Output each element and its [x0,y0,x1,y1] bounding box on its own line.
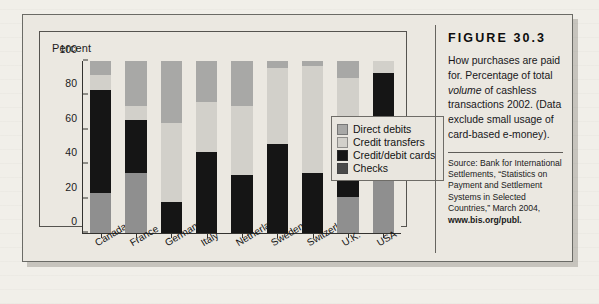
bar-segment-credit-debit-cards [302,173,323,233]
y-axis-tick-mark [83,232,88,233]
bar-group-italy [196,61,217,233]
y-axis-tick-label: 100 [59,43,83,55]
bar-group-germany [161,61,182,233]
y-axis-tick-label: 80 [65,77,83,89]
bar-segment-credit-transfers [90,75,111,90]
chart-legend: Direct debits Credit transfers Credit/de… [331,116,444,181]
figure-caption-column: FIGURE 30.3 How purchases are paid for. … [435,25,563,253]
caption-divider [448,152,563,153]
bar-segment-credit-transfers [196,102,217,152]
bar-segment-credit-debit-cards [196,152,217,233]
bar-segment-direct-debits [337,61,358,78]
bar-group-france [125,61,146,233]
legend-swatch-credit-transfers [337,137,348,148]
legend-label-credit-debit-cards: Credit/debit cards [353,149,435,161]
bar-segment-credit-transfers [231,106,252,175]
bar-segment-direct-debits [267,61,288,68]
legend-item: Direct debits [337,123,435,135]
y-axis-tick-mark [83,197,88,198]
bar-segment-checks [90,193,111,233]
bar-segment-credit-transfers [161,123,182,202]
bar-segment-direct-debits [161,61,182,123]
bar-segment-credit-transfers [302,66,323,173]
y-axis-tick-mark [83,60,88,61]
legend-item: Checks [337,162,435,174]
bar-group-canada [90,61,111,233]
y-axis-tick-label: 20 [65,181,83,193]
figure-source-text: Source: Bank for International Settlemen… [448,158,562,214]
y-axis-tick-mark [83,128,88,129]
bar-segment-checks [125,173,146,233]
legend-label-checks: Checks [353,162,388,174]
bar-segment-credit-debit-cards [231,175,252,233]
bar-segment-credit-debit-cards [267,144,288,233]
figure-description: How purchases are paid for. Percentage o… [448,54,563,143]
figure-source-url: www.bis.org/publ. [448,215,522,225]
y-axis-tick-mark [83,94,88,95]
bar-group-sweden [267,61,288,233]
bar-segment-direct-debits [90,61,111,75]
bar-segment-credit-debit-cards [125,120,146,173]
bar-group-switzerland [302,61,323,233]
figure-number-label: FIGURE 30.3 [448,31,563,45]
bar-segment-credit-debit-cards [90,90,111,193]
bar-segment-direct-debits [196,61,217,102]
legend-item: Credit transfers [337,136,435,148]
legend-swatch-credit-debit-cards [337,150,348,161]
bar-segment-credit-transfers [125,106,146,120]
bar-segment-credit-transfers [267,68,288,144]
chart-panel: Percent 020406080100CanadaFranceGermanyI… [31,23,427,253]
legend-swatch-direct-debits [337,124,348,135]
legend-label-direct-debits: Direct debits [353,123,411,135]
bar-segment-direct-debits [125,61,146,106]
legend-item: Credit/debit cards [337,149,435,161]
legend-swatch-checks [337,163,348,174]
bar-segment-checks [337,197,358,233]
y-axis-tick-label: 0 [71,215,83,227]
y-axis-tick-mark [83,163,88,164]
y-axis-tick-label: 40 [65,146,83,158]
y-axis-tick-label: 60 [65,112,83,124]
figure-description-part1: How purchases are paid for. Percentage o… [448,55,560,81]
bar-group-netherlands [231,61,252,233]
figure-source: Source: Bank for International Settlemen… [448,158,563,227]
bar-segment-credit-transfers [373,61,394,73]
bar-segment-direct-debits [231,61,252,106]
legend-label-credit-transfers: Credit transfers [353,136,425,148]
figure-container: Percent 020406080100CanadaFranceGermanyI… [22,14,573,262]
figure-description-emphasis: volume [448,85,482,96]
